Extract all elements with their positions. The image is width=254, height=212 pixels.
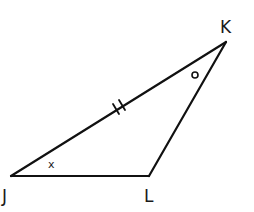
vertex-label-k: K xyxy=(220,17,232,37)
triangle-jkl-diagram: x K J L xyxy=(0,0,254,212)
vertex-label-j: J xyxy=(1,186,7,206)
vertex-label-l: L xyxy=(144,186,154,206)
side-jk xyxy=(11,42,226,176)
angle-mark-k-circle-icon xyxy=(192,72,198,78)
angle-mark-j: x xyxy=(48,158,55,171)
side-lk xyxy=(149,42,226,176)
